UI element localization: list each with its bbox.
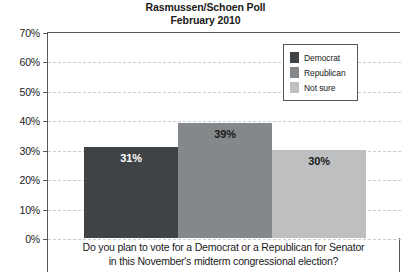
y-axis-label: 0% [25, 233, 40, 245]
chart-legend: Democrat Republican Not sure [283, 44, 358, 101]
bar-value-label: 30% [272, 155, 366, 167]
y-axis-label: 40% [20, 115, 40, 127]
chart-title: Rasmussen/Schoen Poll February 2010 [0, 1, 411, 27]
chart-title-line-2: February 2010 [0, 14, 411, 27]
y-axis-tick [43, 62, 48, 63]
bar-democrat: 31% [84, 147, 178, 238]
bar-value-label: 31% [84, 152, 178, 164]
legend-swatch-republican [290, 67, 299, 78]
y-axis-tick [43, 239, 48, 240]
bar-not-sure: 30% [272, 150, 366, 238]
chart-caption-line-2: in this November's midterm congressional… [47, 254, 400, 268]
chart-caption: Do you plan to vote for a Democrat or a … [47, 240, 400, 268]
legend-label-democrat: Democrat [304, 53, 340, 63]
y-axis-label: 20% [20, 174, 40, 186]
legend-swatch-democrat [290, 52, 299, 63]
legend-label-republican: Republican [304, 68, 346, 78]
y-axis-label: 60% [20, 56, 40, 68]
gridline [48, 239, 401, 240]
y-axis-label: 70% [20, 27, 40, 39]
bar-value-label: 39% [178, 128, 272, 140]
y-axis-tick [43, 92, 48, 93]
legend-swatch-not-sure [290, 82, 299, 93]
y-axis-tick [43, 121, 48, 122]
y-axis-tick [43, 210, 48, 211]
legend-item-republican: Republican [290, 65, 352, 80]
legend-item-democrat: Democrat [290, 50, 352, 65]
legend-item-not-sure: Not sure [290, 80, 352, 95]
chart-title-line-1: Rasmussen/Schoen Poll [0, 1, 411, 14]
y-axis-label: 30% [20, 145, 40, 157]
y-axis-label: 50% [20, 86, 40, 98]
bar-republican: 39% [178, 123, 272, 238]
y-axis-tick [43, 151, 48, 152]
y-axis-label: 10% [20, 204, 40, 216]
gridline [48, 121, 401, 122]
chart-caption-line-1: Do you plan to vote for a Democrat or a … [47, 240, 400, 254]
y-axis-tick [43, 180, 48, 181]
legend-label-not-sure: Not sure [304, 83, 335, 93]
y-axis-tick [43, 33, 48, 34]
